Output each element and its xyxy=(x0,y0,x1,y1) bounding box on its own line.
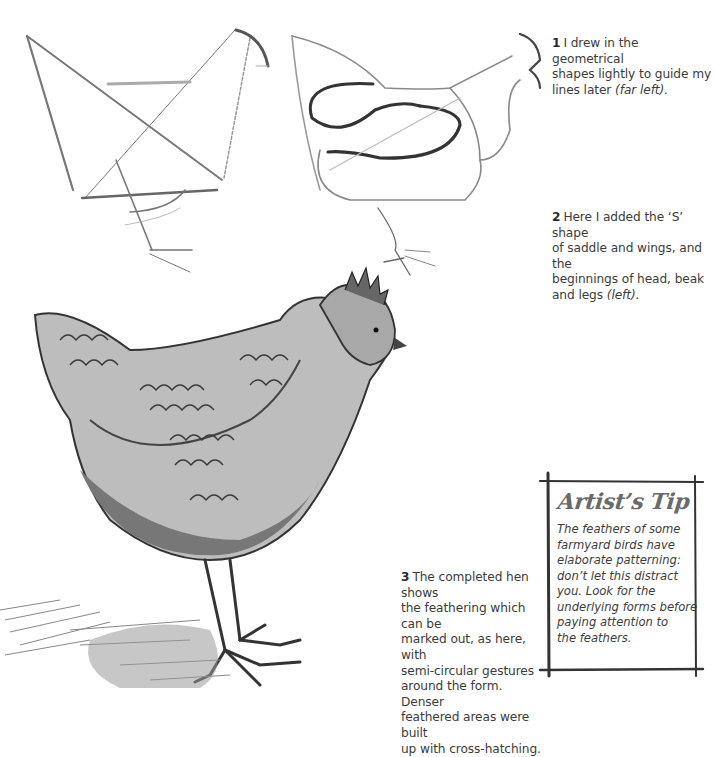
step-2-s-shape-sketch xyxy=(292,34,540,275)
caption-reference: (far left). xyxy=(615,83,668,97)
caption-number: 1 xyxy=(552,36,560,50)
caption-step-3: 3The completed hen shows the feathering … xyxy=(401,570,546,757)
artists-tip-box: Artist’s Tip The feathers of some farmya… xyxy=(548,480,700,670)
caption-step-1: 1I drew in the geometrical shapes lightl… xyxy=(552,36,712,98)
step-3-completed-hen xyxy=(0,268,407,688)
caption-number: 3 xyxy=(401,570,409,584)
step-1-geometric-sketch xyxy=(27,30,268,272)
caption-step-2: 2Here I added the ‘S’ shape of saddle an… xyxy=(552,210,715,304)
artists-tip-body: The feathers of some farmyard birds have… xyxy=(557,522,699,646)
artists-tip-title: Artist’s Tip xyxy=(557,488,691,514)
caption-reference: (left). xyxy=(607,288,640,302)
caption-number: 2 xyxy=(552,210,560,224)
